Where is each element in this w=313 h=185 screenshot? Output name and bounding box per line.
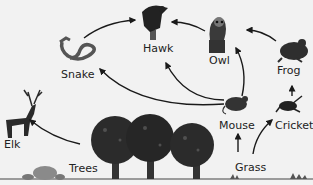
arrow-frog-to-owl <box>247 30 276 41</box>
label-elk: Elk <box>4 138 20 151</box>
food-web-diagram <box>0 0 313 185</box>
snake-icon <box>60 38 94 59</box>
cricket-icon <box>276 96 302 112</box>
arrow-mouse-to-owl <box>236 48 244 96</box>
arrow-grass-to-cricket <box>253 120 272 154</box>
mouse-icon <box>223 96 248 114</box>
label-hawk: Hawk <box>143 42 173 55</box>
arrow-snake-to-hawk <box>84 20 135 38</box>
trees-icon <box>91 114 214 179</box>
label-grass: Grass <box>235 161 266 174</box>
label-cricket: Cricket <box>275 119 313 132</box>
arrow-owl-to-hawk <box>172 22 205 31</box>
elk-icon <box>6 90 42 138</box>
label-trees: Trees <box>69 162 98 175</box>
hawk-icon <box>142 6 168 40</box>
owl-icon <box>209 17 226 53</box>
arrow-trees-to-elk <box>30 120 80 144</box>
label-mouse: Mouse <box>219 119 255 132</box>
arrow-mouse-to-hawk <box>166 63 224 100</box>
label-snake: Snake <box>61 68 94 81</box>
label-owl: Owl <box>209 54 230 67</box>
label-frog: Frog <box>277 64 301 77</box>
arrow-mouse-to-snake <box>100 69 224 105</box>
frog-icon <box>278 39 308 62</box>
rock-icon <box>22 166 65 180</box>
